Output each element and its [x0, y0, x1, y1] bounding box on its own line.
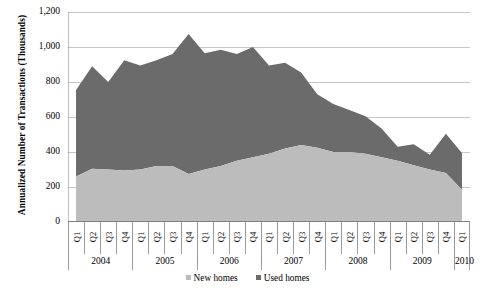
x-axis-quarter-label: Q4: [249, 232, 258, 243]
x-axis-quarter-label: Q2: [281, 232, 290, 243]
x-axis-year-label: 2010: [454, 254, 470, 270]
legend-label: Used homes: [264, 273, 310, 283]
y-axis-tick-label: 600: [46, 112, 60, 122]
x-axis-quarter-label: Q3: [169, 232, 178, 243]
x-axis-quarter-cell: Q2: [406, 222, 422, 254]
x-axis-quarter-labels: Q1Q2Q3Q4Q1Q2Q3Q4Q1Q2Q3Q4Q1Q2Q3Q4Q1Q2Q3Q4…: [68, 222, 470, 254]
x-axis-quarter-label: Q1: [265, 232, 274, 243]
x-axis-quarter-cell: Q3: [357, 222, 373, 254]
x-axis-quarter-cell: Q4: [116, 222, 132, 254]
x-axis-quarter-cell: Q1: [68, 222, 84, 254]
y-axis-tick-label: 400: [46, 147, 60, 157]
x-axis-quarter-label: Q1: [72, 232, 81, 243]
x-axis-quarter-cell: Q4: [374, 222, 390, 254]
y-axis-tick-label: 200: [46, 182, 60, 192]
x-axis-quarter-label: Q1: [201, 232, 210, 243]
x-axis-quarter-cell: Q1: [390, 222, 406, 254]
x-axis-quarter-cell: Q4: [245, 222, 261, 254]
x-axis-quarter-cell: Q3: [100, 222, 116, 254]
y-axis-tick-label: 1,000: [39, 42, 60, 52]
x-axis-quarter-cell: Q2: [148, 222, 164, 254]
x-axis-year-label: 2004: [68, 254, 132, 270]
x-axis-quarter-cell: Q4: [309, 222, 325, 254]
legend-swatch-icon: [256, 275, 261, 280]
legend-label: New homes: [194, 273, 238, 283]
x-axis-quarter-cell: Q1: [325, 222, 341, 254]
x-axis-year-label: 2009: [390, 254, 454, 270]
x-axis-quarter-label: Q3: [426, 232, 435, 243]
x-axis-quarter-label: Q3: [233, 232, 242, 243]
legend-swatch-icon: [186, 275, 191, 280]
stacked-area-chart: Annualized Number of Transactions (Thous…: [0, 0, 495, 294]
y-axis-tick-label: 800: [46, 77, 60, 87]
x-axis-quarter-label: Q2: [346, 232, 355, 243]
x-axis-quarter-cell: Q1: [261, 222, 277, 254]
x-axis-quarter-label: Q2: [88, 232, 97, 243]
legend-entry: Used homes: [256, 272, 310, 283]
y-axis-tick-label: 0: [55, 217, 60, 227]
x-axis-quarter-label: Q1: [394, 232, 403, 243]
plot-svg: [68, 12, 470, 222]
x-axis-quarter-cell: Q4: [181, 222, 197, 254]
x-axis-quarter-label: Q3: [104, 232, 113, 243]
x-axis-quarter-cell: Q2: [84, 222, 100, 254]
x-axis-year-label: 2008: [325, 254, 389, 270]
x-axis-quarter-label: Q4: [442, 232, 451, 243]
x-axis-quarter-cell: Q3: [164, 222, 180, 254]
x-axis-quarter-label: Q4: [120, 232, 129, 243]
x-axis-quarter-label: Q1: [330, 232, 339, 243]
x-axis-quarter-label: Q4: [378, 232, 387, 243]
x-axis-quarter-cell: Q2: [341, 222, 357, 254]
x-axis-quarter-label: Q2: [410, 232, 419, 243]
legend-entry: New homes: [186, 272, 238, 283]
x-axis-quarter-label: Q2: [217, 232, 226, 243]
x-axis-quarter-cell: Q4: [438, 222, 454, 254]
y-axis-tick-label: 1,200: [39, 7, 60, 17]
chart-legend: New homesUsed homes: [0, 272, 495, 283]
plot-area: [68, 12, 470, 222]
x-axis-quarter-cell: Q1: [454, 222, 470, 254]
x-axis-quarter-label: Q3: [362, 232, 371, 243]
x-axis-quarter-label: Q4: [185, 232, 194, 243]
x-axis-quarter-cell: Q3: [229, 222, 245, 254]
x-axis-quarter-cell: Q3: [293, 222, 309, 254]
x-axis-quarter-label: Q4: [313, 232, 322, 243]
x-axis-quarter-cell: Q3: [422, 222, 438, 254]
x-axis-quarter-cell: Q1: [197, 222, 213, 254]
x-axis-year-label: 2006: [197, 254, 261, 270]
x-axis-quarter-cell: Q2: [277, 222, 293, 254]
x-axis-quarter-cell: Q1: [132, 222, 148, 254]
x-axis-year-label: 2007: [261, 254, 325, 270]
x-axis-quarter-cell: Q2: [213, 222, 229, 254]
x-axis-quarter-label: Q3: [297, 232, 306, 243]
x-axis-year-labels: 2004200520062007200820092010: [68, 254, 470, 270]
x-axis-year-label: 2005: [132, 254, 196, 270]
y-axis-tick-labels: 1,2001,0008006004002000: [20, 0, 64, 294]
x-axis-quarter-label: Q2: [153, 232, 162, 243]
x-axis-quarter-label: Q1: [137, 232, 146, 243]
x-axis-quarter-label: Q1: [458, 232, 467, 243]
